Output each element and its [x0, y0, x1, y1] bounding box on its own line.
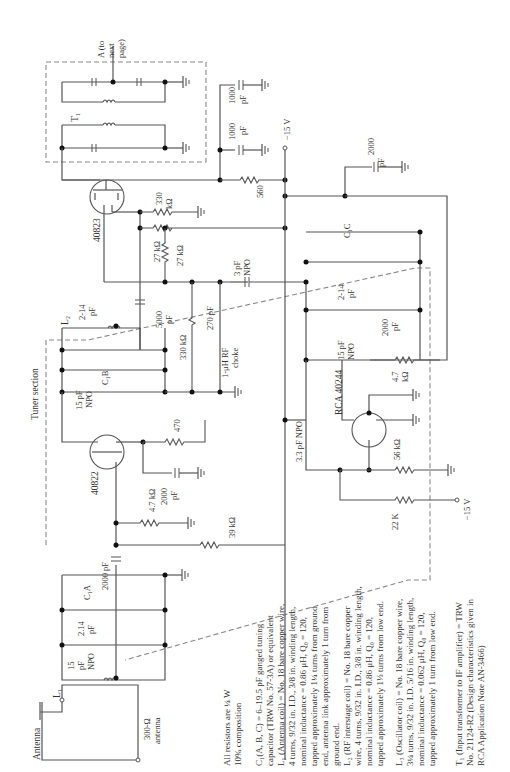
r-27k-a-label: 27 kΩ [152, 241, 162, 262]
r-39k-label: 39 kΩ [227, 517, 237, 538]
antenna-impedance: 300-Ωantenna [142, 717, 162, 744]
c-rf-var-label: 2-14pF [77, 304, 97, 320]
circuit-diagram: A (tonextpage) T₁ 1000 1000 pF pF 560 −1… [0, 0, 510, 772]
supply-terminal-2 [455, 498, 459, 502]
c-osc-trim-label: 15 pFNPO [336, 340, 356, 360]
q3-label: RCA 40244 [334, 370, 344, 415]
antenna-label: Antenna [32, 727, 42, 760]
c-1000b-unit: pF [238, 95, 248, 104]
c-ant-var-label: 2.14pF [76, 620, 96, 636]
c-270-label: 270 pF [205, 306, 215, 330]
r-560-label: 560 [255, 185, 265, 198]
c-5000-label: 5000pF [154, 311, 174, 328]
tuner-section-label: Tuner section [30, 368, 40, 420]
c-osc-2000-label: 2000pF [380, 319, 400, 336]
l1-label: L₁ [52, 689, 62, 698]
c1b-label: C₁B [100, 370, 110, 385]
supply-label-1: −15 V [282, 118, 292, 140]
c-ant-trim-label: 15pFNPO [66, 653, 96, 670]
r-56k-label: 56 kΩ [392, 439, 402, 460]
r-47k-b-label: 4.7kΩ [390, 371, 410, 382]
l2-label: L₂ [60, 316, 70, 325]
r-27k-b-label: 27 kΩ [175, 245, 185, 266]
c-1000a-label: 1000 [227, 123, 237, 140]
c-supply-label: 2000pF [366, 138, 386, 167]
note-c1: C₁(A, B, C) = 6–19.5 pF ganged tuningcap… [254, 615, 275, 766]
tuner-section-boundary [46, 268, 430, 660]
supply-label-2: −15 V [462, 498, 472, 520]
note-resistors: All resistors are ¼ W10% composition [222, 689, 243, 766]
r-330k-a-label: 330 kΩ [178, 335, 188, 360]
c-1000a-unit: pF [238, 126, 248, 135]
note-l3: L₃ (Oscillator coil) = No. 18 bare coppe… [394, 598, 437, 766]
note-l2: L₂ (RF interstage coil) = No. 18 bare co… [342, 586, 385, 766]
r-330k-b-label: 330kΩ [154, 192, 174, 209]
c-coupling-in-label: 2000 pF [100, 562, 110, 590]
r-47k-a-label: 4.7 kΩ [147, 489, 157, 512]
supply-terminal-1 [283, 146, 287, 150]
c-gate-bypass-label: 2000pF [159, 488, 179, 505]
q2-label: 40823 [92, 218, 102, 242]
note-t1: T₁ (Input transformer to IF amplifier) =… [454, 598, 486, 766]
c1a-label: C₁A [82, 584, 92, 600]
c-osc-var-label: 2-14pF [336, 284, 356, 300]
choke-label: 1-μH RFchoke [220, 347, 240, 378]
c1c-label: C₁C [342, 223, 352, 238]
r-470-label: 470 [172, 419, 182, 432]
output-label: A (tonextpage) [96, 39, 126, 58]
notes-block: All resistors are ¼ W10% composition C₁(… [222, 586, 486, 766]
c-rf-trim-label: 15 pFNPO [74, 390, 94, 410]
note-l1: L₁ (Antenna coil) = No. 18 bare copper w… [276, 604, 341, 766]
r-22k-label: 22 K [390, 512, 400, 530]
r-560 [220, 177, 285, 183]
c-3pf-label: 3 pFNPO [232, 259, 252, 276]
t1-label: T₁ [70, 113, 80, 122]
t1-shield-box [46, 62, 206, 162]
c-33pf-label: 3.3 pF NPO [294, 421, 304, 462]
q1-label: 40822 [90, 471, 100, 495]
c-1000b-label: 1000 [227, 87, 237, 104]
